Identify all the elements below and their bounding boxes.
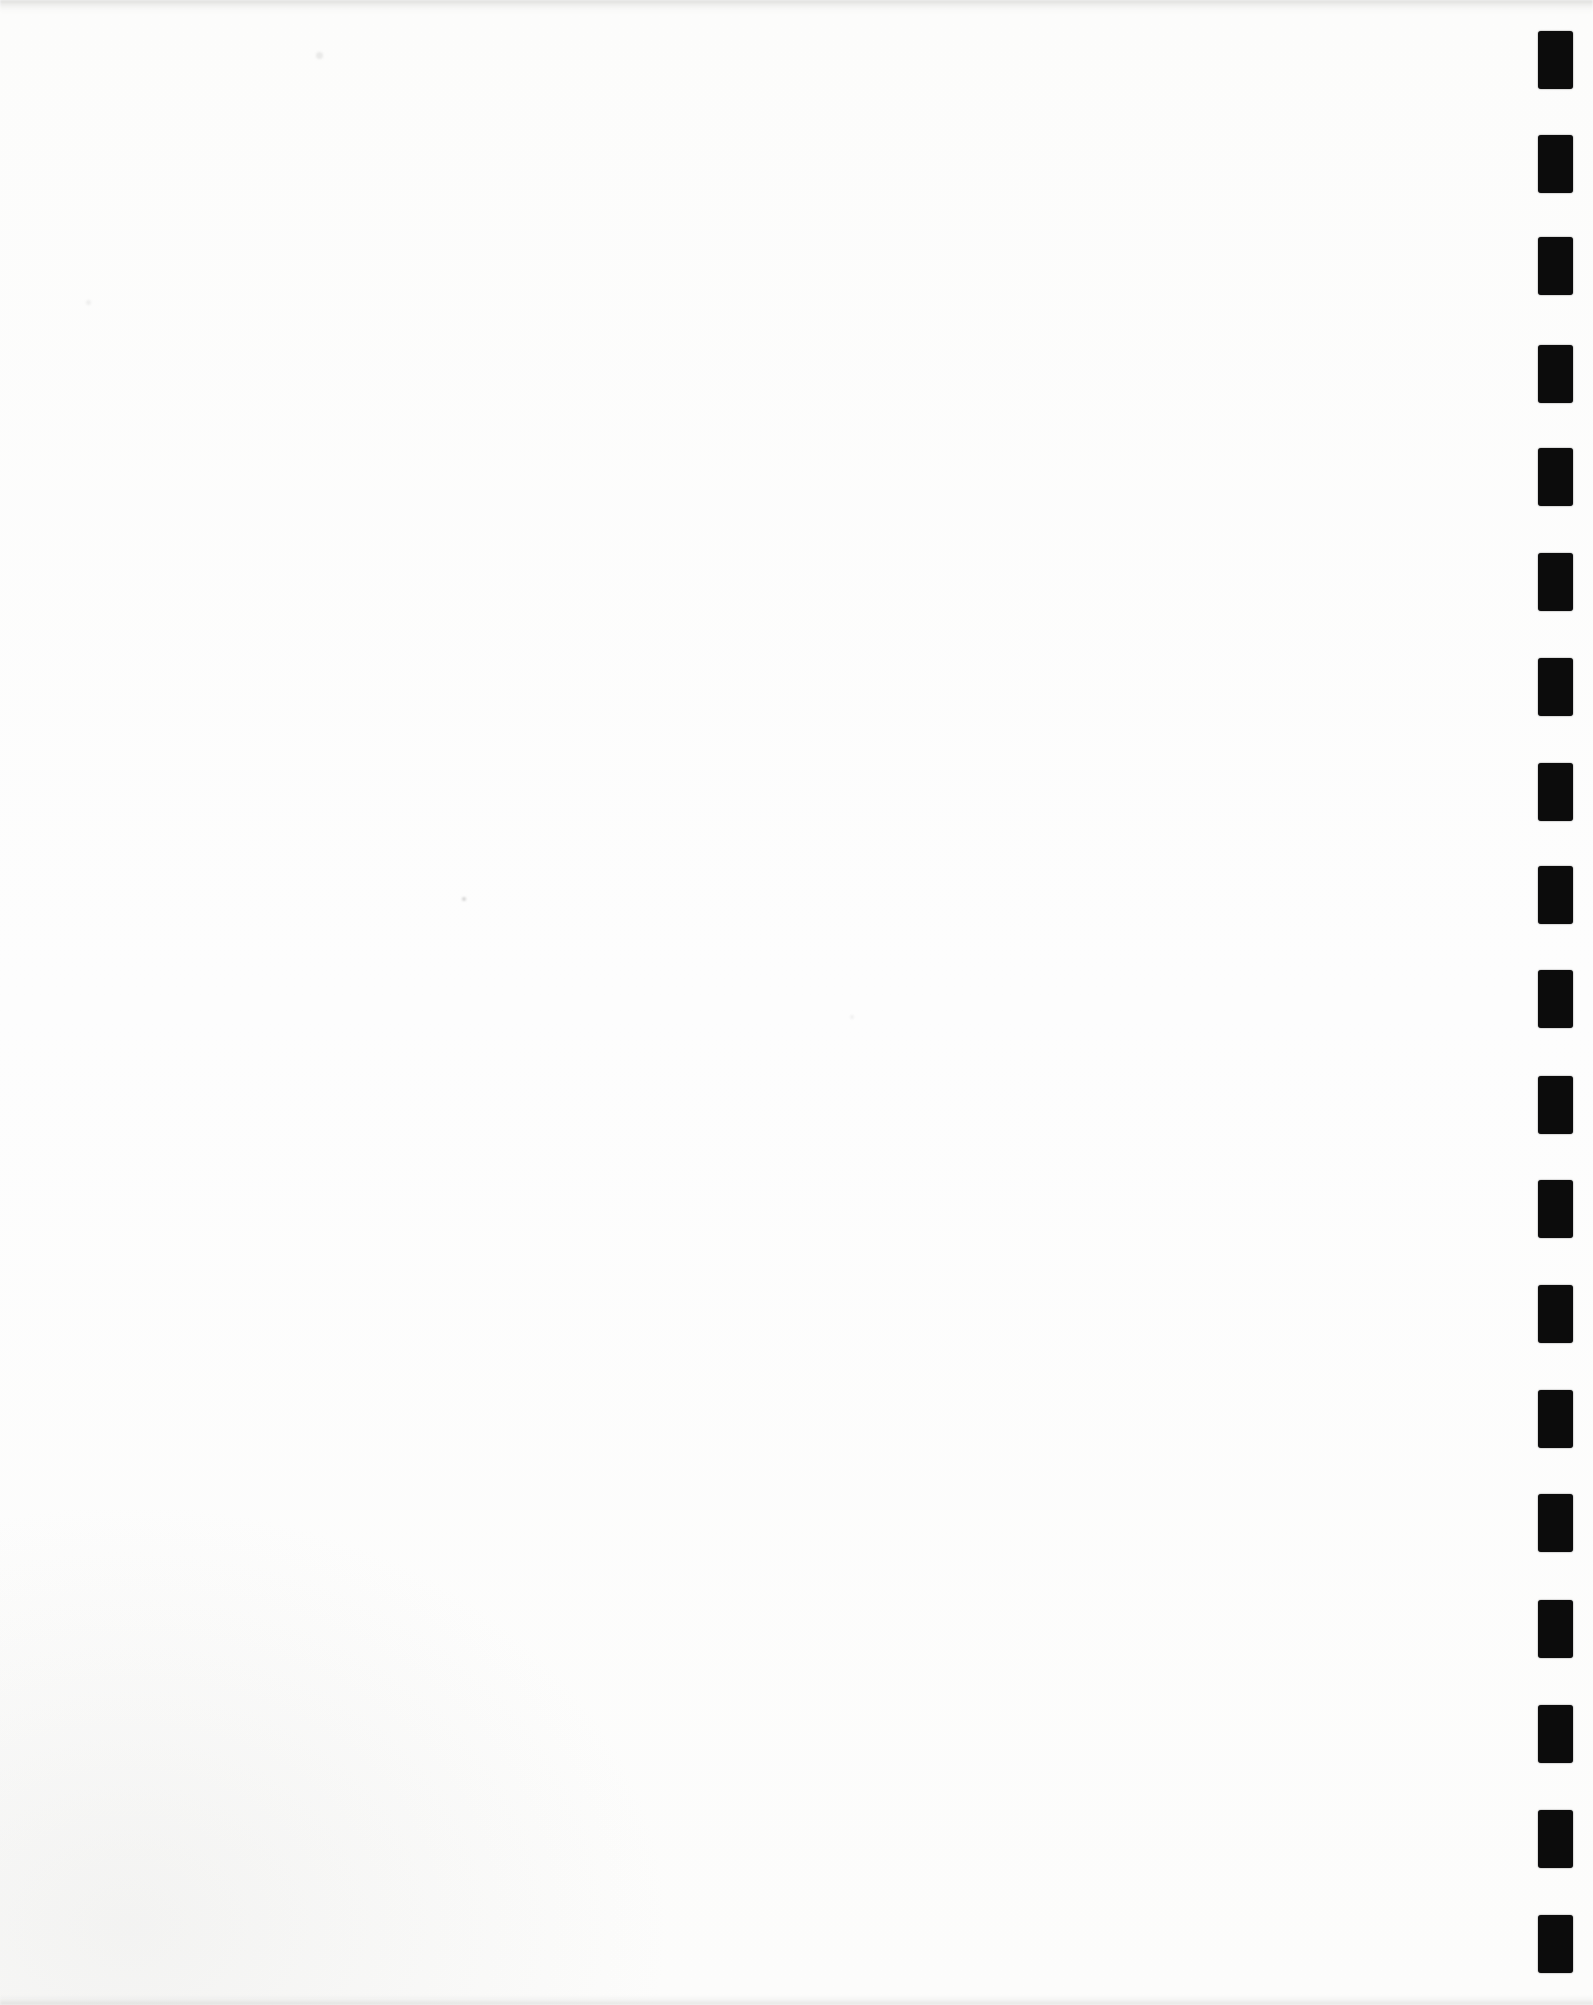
scan-speck xyxy=(316,52,323,59)
punch-mark xyxy=(1538,237,1573,295)
punch-mark xyxy=(1538,970,1573,1028)
scan-speck xyxy=(86,300,91,305)
scan-speck xyxy=(850,1015,854,1019)
punch-mark xyxy=(1538,1180,1573,1238)
punch-mark xyxy=(1538,553,1573,611)
punch-mark xyxy=(1538,345,1573,403)
punch-mark xyxy=(1538,1600,1573,1658)
punch-mark xyxy=(1538,31,1573,89)
punch-mark xyxy=(1538,658,1573,716)
scanner-edge-shadow-bottom xyxy=(0,1995,1593,2005)
punch-mark xyxy=(1538,448,1573,506)
scan-speck xyxy=(462,897,466,901)
punch-mark xyxy=(1538,1810,1573,1868)
punch-mark xyxy=(1538,1285,1573,1343)
punch-mark xyxy=(1538,763,1573,821)
punch-mark xyxy=(1538,1705,1573,1763)
scanned-page xyxy=(0,0,1593,2005)
punch-mark xyxy=(1538,1915,1573,1973)
punch-mark xyxy=(1538,135,1573,193)
scanner-edge-shadow-top xyxy=(0,0,1593,14)
punch-mark xyxy=(1538,1494,1573,1552)
punch-mark xyxy=(1538,1076,1573,1134)
punch-mark xyxy=(1538,1390,1573,1448)
punch-mark xyxy=(1538,866,1573,924)
